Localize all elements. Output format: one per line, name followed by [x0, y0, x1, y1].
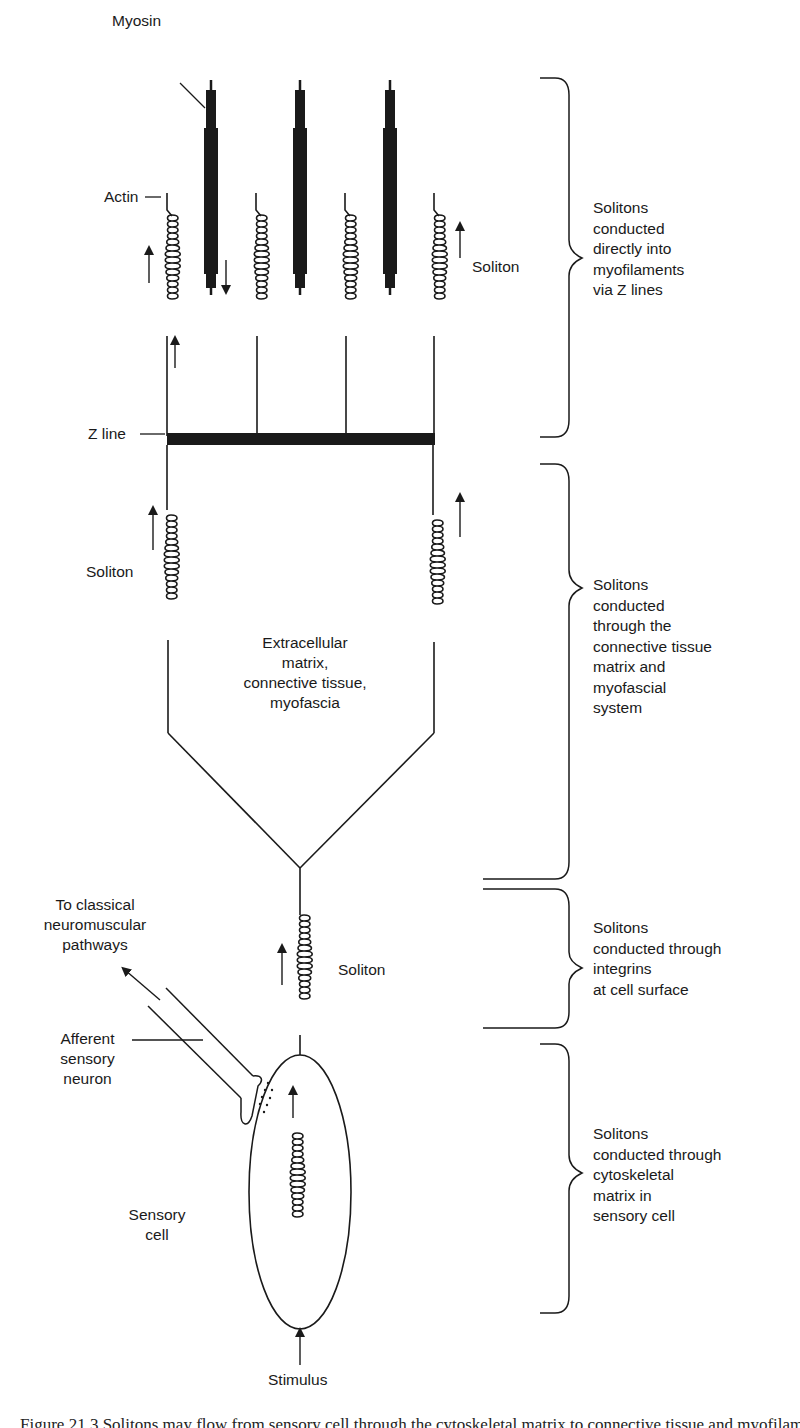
label-afferent-line3: neuron	[50, 1069, 125, 1089]
label-soliton-low: Soliton	[338, 960, 385, 980]
label-to-classical: To classical neuromuscular pathways	[30, 895, 160, 955]
label-z-line: Z line	[88, 424, 126, 444]
myosin-filament-2	[293, 80, 307, 295]
sensory-cell	[249, 1055, 351, 1329]
label-sensory-cell-line2: cell	[122, 1225, 192, 1245]
label-ecm-line4: myofascia	[215, 693, 395, 713]
label-soliton-mid: Soliton	[86, 562, 133, 582]
integrin-soliton	[282, 915, 312, 1055]
label-sensory-cell: Sensory cell	[122, 1205, 192, 1245]
myosin-filament-3	[383, 80, 397, 295]
label-to-classical-line1: To classical	[30, 895, 160, 915]
brace-myofilaments	[540, 78, 582, 437]
z-line-bar	[167, 433, 435, 445]
label-to-classical-line3: pathways	[30, 935, 160, 955]
label-ecm: Extracellular matrix, connective tissue,…	[215, 633, 395, 713]
brace-text-cytoskeletal: Solitons conducted through cytoskeletal …	[593, 1124, 721, 1227]
label-actin: Actin	[104, 187, 138, 207]
label-afferent-line1: Afferent	[50, 1029, 125, 1049]
brace-text-connective: Solitons conducted through the connectiv…	[593, 575, 712, 719]
myosin-filament-1	[204, 80, 218, 295]
afferent-neuron	[125, 970, 273, 1124]
label-afferent-line2: sensory	[50, 1049, 125, 1069]
label-soliton-top: Soliton	[472, 257, 519, 277]
soliton-conduction-diagram: Myosin Actin Z line Soliton Soliton Soli…	[0, 0, 800, 1428]
brace-text-myofilaments: Solitons conducted directly into myofila…	[593, 198, 684, 301]
label-afferent-neuron: Afferent sensory neuron	[50, 1029, 125, 1089]
brace-integrins	[483, 889, 582, 1028]
label-ecm-line3: connective tissue,	[215, 673, 395, 693]
soliton-arrows-mid	[153, 497, 460, 550]
brace-connective	[483, 464, 582, 879]
label-ecm-line2: matrix,	[215, 653, 395, 673]
label-ecm-line1: Extracellular	[215, 633, 395, 653]
label-sensory-cell-line1: Sensory	[122, 1205, 192, 1225]
brace-text-integrins: Solitons conducted through integrins at …	[593, 918, 721, 1000]
brace-cytoskeletal	[540, 1044, 582, 1313]
figure-caption: Figure 21.3 Solitons may flow from senso…	[20, 1414, 800, 1428]
label-to-classical-line2: neuromuscular	[30, 915, 160, 935]
figure-caption-text: Figure 21.3 Solitons may flow from senso…	[20, 1414, 800, 1428]
label-myosin: Myosin	[112, 11, 161, 31]
label-stimulus: Stimulus	[268, 1370, 327, 1390]
myosin-filaments	[180, 80, 397, 295]
